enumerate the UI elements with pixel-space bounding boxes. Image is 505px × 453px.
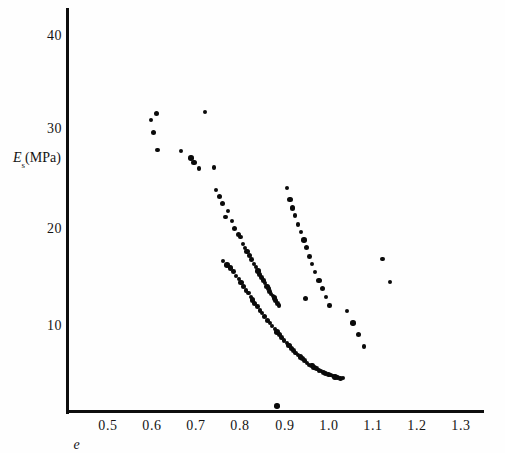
scatter-point: [319, 369, 323, 373]
scatter-point: [279, 335, 284, 340]
scatter-point: [155, 148, 160, 153]
scatter-point: [285, 341, 289, 345]
scatter-point: [271, 294, 275, 298]
scatter-point: [197, 166, 202, 171]
scatter-point: [226, 209, 231, 214]
scatter-point: [203, 110, 207, 114]
scatter-point: [188, 155, 194, 161]
scatter-point: [241, 242, 245, 246]
scatter-point: [249, 295, 253, 299]
scatter-point: [272, 295, 278, 301]
scatter-point: [301, 237, 307, 243]
scatter-point: [326, 372, 331, 377]
scatter-point: [230, 219, 234, 223]
scatter-point: [223, 215, 227, 219]
scatter-point: [356, 332, 361, 337]
scatter-point: [238, 235, 243, 240]
scatter-point: [244, 249, 250, 255]
scatter-point: [296, 222, 300, 226]
y-axis-line: [66, 8, 69, 414]
scatter-point: [243, 246, 247, 250]
scatter-point: [293, 213, 298, 218]
scatter-point: [362, 344, 367, 349]
scatter-point: [300, 356, 305, 361]
scatter-point: [273, 298, 278, 303]
scatter-point: [277, 332, 282, 337]
scatter-point: [305, 361, 309, 365]
scatter-point: [244, 288, 249, 293]
scatter-point: [321, 370, 327, 376]
scatter-point: [237, 277, 241, 281]
scatter-point: [298, 354, 304, 360]
x-tick-label-0-8: 0.8: [217, 418, 263, 433]
scatter-point: [317, 368, 321, 372]
scatter-point: [254, 265, 258, 269]
scatter-point: [232, 226, 238, 232]
scatter-point: [335, 375, 340, 380]
scatter-point: [228, 265, 233, 270]
scatter-point: [338, 376, 343, 381]
y-axis-title: Es(MPa): [13, 150, 61, 171]
scatter-point: [268, 321, 273, 326]
scatter-point: [324, 295, 329, 300]
x-tick-label-1-0: 1.0: [306, 418, 352, 433]
y-tick-label-10: 10: [28, 319, 62, 333]
scatter-point: [246, 291, 250, 295]
scatter-point: [255, 268, 261, 274]
x-axis-title-symbol: e: [73, 437, 79, 452]
scatter-point: [275, 301, 280, 306]
y-tick-label-30: 30: [28, 122, 62, 136]
scatter-point: [350, 320, 356, 326]
scatter-point: [310, 262, 314, 266]
scatter-point: [345, 309, 349, 313]
scatter-point: [191, 160, 196, 165]
scatter-point: [327, 303, 331, 307]
scatter-point: [224, 262, 230, 268]
scatter-point: [241, 284, 246, 289]
scatter-point: [151, 130, 156, 135]
x-tick-label-0-6: 0.6: [129, 418, 175, 433]
scatter-point: [261, 278, 265, 282]
scatter-point: [154, 111, 160, 117]
scatter-point: [311, 365, 316, 370]
scatter-point: [299, 230, 303, 234]
scatter-point: [285, 186, 289, 190]
scatter-point: [258, 308, 262, 312]
scatter-point: [380, 257, 384, 261]
scatter-point: [328, 373, 332, 377]
scatter-point: [341, 376, 345, 380]
scatter-point: [286, 343, 292, 349]
scatter-point: [302, 358, 307, 363]
scatter-point: [260, 311, 264, 315]
scatter-point: [265, 318, 270, 323]
y-axis-tick-labels: 40 30 20 10: [0, 0, 62, 453]
scatter-point: [231, 269, 236, 274]
scatter-point: [314, 366, 319, 371]
scatter-point: [289, 346, 294, 351]
y-axis-title-subscript: s: [22, 160, 26, 170]
y-axis-title-unit: (MPa): [25, 150, 61, 165]
scatter-point: [323, 371, 328, 376]
x-tick-label-1-3: 1.3: [438, 418, 484, 433]
x-tick-label-0-7: 0.7: [173, 418, 219, 433]
y-tick-label-40: 40: [28, 29, 62, 43]
scatter-point: [250, 297, 256, 303]
x-tick-label-0-5: 0.5: [85, 418, 131, 433]
scatter-point: [257, 272, 262, 277]
scatter-point: [252, 262, 256, 266]
scatter-point: [217, 194, 223, 200]
scatter-point: [274, 329, 280, 335]
scatter-point: [291, 348, 296, 353]
scatter-point: [247, 253, 252, 258]
scatter-point: [277, 303, 281, 307]
scatter-point: [290, 205, 295, 210]
x-tick-label-1-2: 1.2: [394, 418, 440, 433]
scatter-chart-figure: 40 30 20 10 Es(MPa) 0.5 0.6 0.7 0.8 0.9 …: [0, 0, 505, 453]
scatter-point: [287, 197, 293, 203]
scatter-point: [313, 270, 317, 274]
y-tick-label-20: 20: [28, 222, 62, 236]
scatter-points-layer: [0, 0, 505, 453]
scatter-point: [259, 275, 264, 280]
x-axis-line: [66, 410, 484, 413]
scatter-point: [238, 280, 244, 286]
